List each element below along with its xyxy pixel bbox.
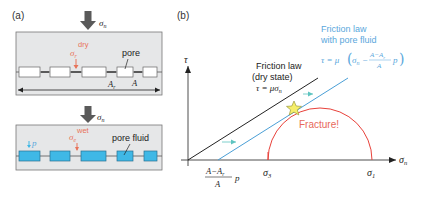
wet-superscript: wet — [76, 126, 90, 135]
svg-text:τ = μσn: τ = μσn — [256, 83, 282, 94]
wet-state-diagram: σn p σe wet pore fluid — [16, 106, 162, 170]
fluid-pore-box — [19, 151, 40, 161]
fracture-label: Fracture! — [299, 119, 339, 130]
dry-superscript: dry — [78, 40, 89, 49]
fracture-star-icon — [287, 101, 302, 115]
svg-text:τ = μ: τ = μ — [321, 55, 340, 65]
svg-text:A−Ar: A−Ar — [369, 51, 385, 60]
pore-box — [19, 67, 40, 77]
sigma1-label: σ1 — [367, 167, 375, 179]
svg-text:−: − — [362, 55, 368, 65]
sigma-n-axis-label: σn — [399, 154, 407, 166]
pore-box — [82, 67, 106, 77]
wet-law-label: Friction law with pore fluid τ = μ ( σn … — [320, 24, 404, 70]
pore-label: pore — [122, 48, 140, 58]
pore-fluid-label: pore fluid — [112, 133, 149, 143]
rock-block-dry — [16, 32, 162, 95]
panel-a-label: (a) — [12, 10, 24, 21]
fluid-pore-box — [144, 151, 157, 161]
sigma-n-label-wet: σn — [97, 112, 104, 123]
fluid-pore-box — [81, 151, 106, 161]
svg-text:with pore fluid: with pore fluid — [320, 35, 377, 45]
svg-text:σn: σn — [352, 55, 359, 66]
tau-axis-label: τ — [184, 54, 188, 65]
intercept-label: A−Ar A p — [205, 166, 240, 189]
svg-text:p: p — [234, 173, 240, 183]
sigma3-label: σ3 — [263, 167, 272, 179]
pressure-label: p — [31, 138, 37, 148]
fluid-pore-box — [50, 151, 70, 161]
pore-box — [143, 67, 157, 77]
svg-text:A: A — [214, 179, 221, 189]
panel-b-label: (b) — [177, 10, 189, 21]
total-area-label: A — [131, 78, 138, 88]
dry-state-diagram: σn σr dry pore Ar A — [16, 11, 162, 95]
rock-block-wet — [16, 125, 162, 170]
sigma-n-label-dry: σn — [99, 18, 106, 29]
mohr-diagram: τ σn Fracture! σ3 σ1 A−Ar A p Friction l… — [181, 24, 407, 189]
pore-box — [50, 67, 70, 77]
mohr-circle — [268, 108, 372, 160]
svg-text:(dry state): (dry state) — [252, 72, 293, 82]
svg-text:): ) — [399, 51, 404, 67]
svg-text:A−Ar: A−Ar — [205, 166, 225, 177]
svg-text:A: A — [376, 62, 382, 70]
svg-text:Friction law: Friction law — [256, 61, 302, 71]
svg-text:p: p — [392, 55, 398, 65]
svg-text:Friction law: Friction law — [321, 24, 367, 34]
figure-canvas: (a) σn σr dry pore Ar — [0, 0, 423, 199]
dry-law-label: Friction law (dry state) τ = μσn — [252, 61, 302, 94]
applied-load-arrow-wet — [80, 106, 96, 123]
applied-load-arrow-dry — [80, 11, 96, 30]
